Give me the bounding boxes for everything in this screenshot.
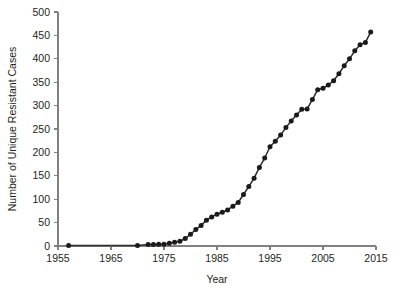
y-axis-title: Number of Unique Resistant Cases <box>6 47 18 212</box>
data-point-marker <box>193 227 198 232</box>
data-point-marker <box>151 242 156 247</box>
data-point-marker <box>336 71 341 76</box>
data-point-marker <box>162 242 167 247</box>
data-point-marker <box>283 125 288 130</box>
data-point-marker <box>177 239 182 244</box>
data-point-marker <box>135 243 140 248</box>
data-point-marker <box>156 242 161 247</box>
data-point-marker <box>315 87 320 92</box>
data-point-marker <box>294 112 299 117</box>
data-point-marker <box>358 42 363 47</box>
x-axis-tick-label: 1975 <box>152 252 176 264</box>
data-point-marker <box>289 119 294 124</box>
data-point-marker <box>172 240 177 245</box>
data-point-marker <box>241 192 246 197</box>
data-point-marker <box>347 56 352 61</box>
data-point-marker <box>268 144 273 149</box>
data-point-marker <box>66 243 71 248</box>
data-point-marker <box>299 107 304 112</box>
x-axis-tick-label: 1965 <box>99 252 123 264</box>
data-point-marker <box>352 48 357 53</box>
chart-figure: 050100150200250300350400450500 195519651… <box>0 0 408 298</box>
data-point-marker <box>363 40 368 45</box>
data-point-marker <box>252 176 257 181</box>
x-axis-tick-label: 2015 <box>364 252 388 264</box>
y-axis-tick-label: 100 <box>32 193 50 205</box>
y-axis-tick-label: 350 <box>32 76 50 88</box>
resistant-cases-line-chart: 050100150200250300350400450500 195519651… <box>0 0 408 298</box>
x-axis-title: Year <box>206 273 228 285</box>
data-point-marker <box>278 133 283 138</box>
x-axis-tick-label: 1995 <box>258 252 282 264</box>
data-point-marker <box>321 86 326 91</box>
data-point-marker <box>199 223 204 228</box>
data-point-marker <box>331 78 336 83</box>
data-point-marker <box>215 212 220 217</box>
data-point-marker <box>326 83 331 88</box>
data-point-marker <box>257 165 262 170</box>
chart-plot-area: 050100150200250300350400450500 195519651… <box>6 6 388 285</box>
data-point-marker <box>209 214 214 219</box>
data-point-marker <box>368 30 373 35</box>
x-axis-tick-label: 2005 <box>311 252 335 264</box>
y-axis-tick-label: 450 <box>32 29 50 41</box>
data-series <box>66 30 373 248</box>
data-point-marker <box>262 156 267 161</box>
data-point-marker <box>225 207 230 212</box>
x-axis: 1955196519751985199520052015 <box>46 246 388 264</box>
data-point-marker <box>220 210 225 215</box>
y-axis: 050100150200250300350400450500 <box>32 6 58 252</box>
y-axis-tick-label: 150 <box>32 169 50 181</box>
data-point-marker <box>273 139 278 144</box>
series-line <box>69 32 371 245</box>
x-axis-tick-label: 1955 <box>46 252 70 264</box>
data-point-marker <box>236 200 241 205</box>
x-axis-tick-label: 1985 <box>205 252 229 264</box>
y-axis-tick-label: 200 <box>32 146 50 158</box>
y-axis-tick-label: 0 <box>44 240 50 252</box>
data-point-marker <box>188 232 193 237</box>
data-point-marker <box>305 106 310 111</box>
data-point-marker <box>146 242 151 247</box>
y-axis-tick-label: 400 <box>32 52 50 64</box>
y-axis-tick-label: 300 <box>32 99 50 111</box>
data-point-marker <box>342 63 347 68</box>
data-point-marker <box>310 97 315 102</box>
data-point-marker <box>183 236 188 241</box>
data-point-marker <box>230 204 235 209</box>
y-axis-tick-label: 50 <box>38 216 50 228</box>
data-point-marker <box>204 218 209 223</box>
y-axis-tick-label: 250 <box>32 123 50 135</box>
data-point-marker <box>167 241 172 246</box>
y-axis-tick-label: 500 <box>32 6 50 18</box>
data-point-marker <box>246 184 251 189</box>
